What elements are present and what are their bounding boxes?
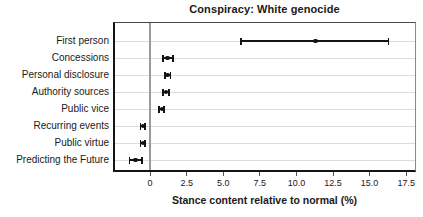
x-tick-mark (150, 172, 151, 176)
y-axis-label: Predicting the Future (0, 154, 109, 166)
error-bar-cap-high (168, 89, 170, 96)
x-tick-mark (223, 172, 224, 176)
y-axis-label: First person (0, 35, 109, 47)
y-axis-label: Recurring events (0, 120, 109, 132)
error-bar-cap-high (170, 72, 172, 79)
x-tick-label: 17.5 (397, 178, 415, 188)
data-point-marker (133, 158, 137, 162)
zero-reference-line (149, 23, 150, 170)
error-bar-cap-low (240, 38, 242, 45)
x-tick-label: 10.0 (288, 178, 306, 188)
x-tick-label: 0 (148, 178, 153, 188)
y-axis-label: Authority sources (0, 86, 109, 98)
data-point-marker (165, 56, 169, 60)
x-axis-label: Stance content relative to normal (%) (113, 194, 416, 206)
y-axis-label: Personal disclosure (0, 69, 109, 81)
error-bar-cap-high (141, 157, 143, 164)
x-tick-label: 2.5 (180, 178, 193, 188)
x-tick-mark (406, 172, 407, 176)
y-axis-label: Concessions (0, 52, 109, 64)
plot-canvas (115, 23, 415, 170)
gridline (115, 58, 415, 59)
x-tick-mark (259, 172, 260, 176)
x-tick-label: 5.0 (217, 178, 230, 188)
data-point-marker (313, 39, 317, 43)
x-tick-mark (296, 172, 297, 176)
chart-title: Conspiracy: White genocide (113, 3, 416, 15)
gridline (115, 143, 415, 144)
gridline (115, 75, 415, 76)
y-axis-label: Public vice (0, 103, 109, 115)
error-bar-cap-high (388, 38, 390, 45)
x-tick-label: 7.5 (254, 178, 267, 188)
gridline (115, 126, 415, 127)
x-tick-label: 12.5 (324, 178, 342, 188)
gridline (115, 92, 415, 93)
x-tick-mark (333, 172, 334, 176)
x-tick-mark (369, 172, 370, 176)
error-bar-cap-low (129, 157, 131, 164)
figure: Conspiracy: White genocide First personC… (0, 0, 423, 217)
y-axis-label: Public virtue (0, 137, 109, 149)
error-bar-cap-low (162, 55, 164, 62)
gridline (115, 160, 415, 161)
data-point-marker (165, 73, 169, 77)
x-tick-label: 15.0 (361, 178, 379, 188)
x-tick-mark (186, 172, 187, 176)
error-bar-cap-high (172, 55, 174, 62)
